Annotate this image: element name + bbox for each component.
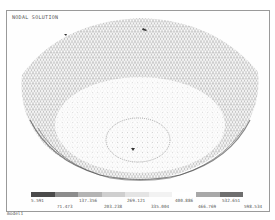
legend-label: 137.356 [79, 198, 97, 203]
node-marker [64, 34, 67, 36]
legend-color-bar [31, 192, 243, 197]
bowl-mesh-plot [0, 0, 275, 220]
legend-label: 335.004 [151, 204, 169, 209]
legend-label: 400.886 [175, 198, 193, 203]
legend-swatch-1 [31, 192, 55, 197]
legend-label: 269.121 [127, 198, 145, 203]
legend-swatch-4 [102, 192, 126, 197]
legend-swatch-2 [55, 192, 79, 197]
legend-label: 71.473 [57, 204, 73, 209]
legend-swatch-6 [149, 192, 173, 197]
legend-label: 5.591 [31, 198, 44, 203]
legend-label: 598.534 [244, 204, 262, 209]
legend-swatch-7 [172, 192, 196, 197]
model-label: model1 [7, 211, 23, 216]
legend-swatch-5 [125, 192, 149, 197]
mesh-surface [0, 0, 275, 220]
legend-swatch-3 [78, 192, 102, 197]
legend-label: 466.769 [198, 204, 216, 209]
legend-swatch-9 [220, 192, 244, 197]
legend-swatch-8 [196, 192, 220, 197]
legend-label: 203.238 [104, 204, 122, 209]
legend-label: 532.651 [222, 198, 240, 203]
